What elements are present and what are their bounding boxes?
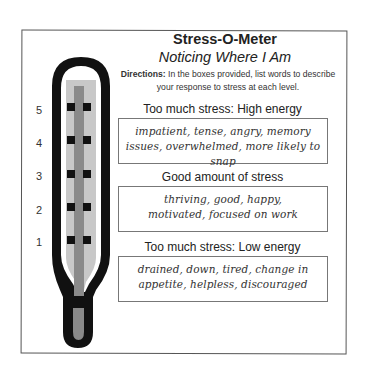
response-text-low-energy: drained, down, tired, change in appetite… [119, 257, 327, 292]
heading-high-energy: Too much stress: High energy [115, 102, 330, 116]
directions-text: In the boxes provided, list words to des… [157, 69, 335, 92]
level-5-label: 5 [33, 104, 45, 116]
directions-label: Directions: [121, 69, 166, 79]
response-text-good-stress: thriving, good, happy, motivated, focuse… [119, 187, 327, 222]
level-1-label: 1 [33, 236, 45, 248]
level-4-label: 4 [33, 137, 45, 149]
response-box-high-energy[interactable]: impatient, tense, angry, memory issues, … [118, 118, 328, 164]
heading-good-stress: Good amount of stress [115, 170, 330, 184]
page-subtitle: Noticing Where I Am [110, 49, 340, 65]
level-3-label: 3 [33, 170, 45, 182]
response-text-high-energy: impatient, tense, angry, memory issues, … [119, 119, 327, 169]
level-2-label: 2 [33, 204, 45, 216]
response-box-good-stress[interactable]: thriving, good, happy, motivated, focuse… [118, 186, 328, 232]
page-title: Stress-O-Meter [110, 31, 340, 47]
heading-low-energy: Too much stress: Low energy [115, 240, 330, 254]
directions: Directions: In the boxes provided, list … [112, 68, 344, 94]
response-box-low-energy[interactable]: drained, down, tired, change in appetite… [118, 256, 328, 302]
